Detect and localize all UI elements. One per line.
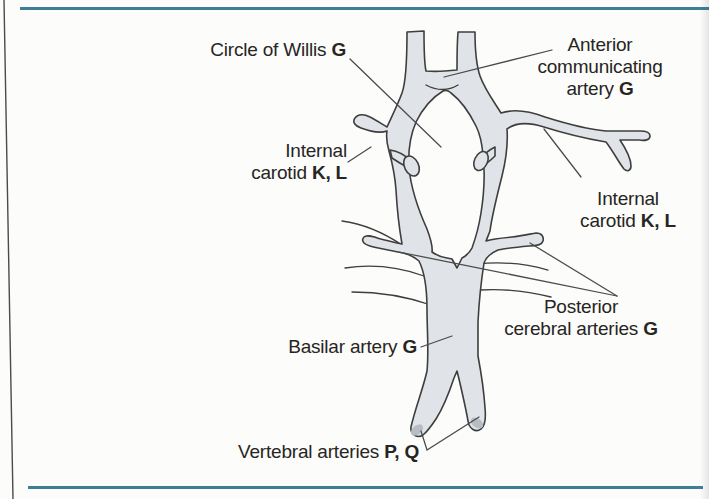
label-line: artery G <box>524 78 676 100</box>
leader-internal-carotid-left <box>348 147 371 162</box>
label-anterior-communicating-artery: Anterior communicating artery G <box>524 34 676 100</box>
label-line: cerebral arteries G <box>492 318 670 340</box>
label-line: Anterior <box>524 34 676 56</box>
page-left-edge-line <box>4 0 13 499</box>
label-text: artery <box>566 78 613 99</box>
label-code: G <box>643 318 658 339</box>
leader-posterior-cerebral-right <box>530 243 617 296</box>
label-text: Basilar artery <box>288 336 397 357</box>
label-basilar-artery: Basilar artery G <box>288 336 417 358</box>
label-line: communicating <box>524 56 676 78</box>
label-posterior-cerebral-arteries: Posterior cerebral arteries G <box>492 296 670 340</box>
label-internal-carotid-right: Internal carotid K, L <box>575 188 681 232</box>
label-line: carotid K, L <box>251 162 347 184</box>
label-text: Circle of Willis <box>210 39 326 60</box>
label-text: carotid <box>251 162 307 183</box>
label-internal-carotid-left: Internal carotid K, L <box>251 140 347 184</box>
label-text: carotid <box>580 210 636 231</box>
label-line: Posterior <box>492 296 670 318</box>
book-diagram-page: Circle of Willis G Anterior communicatin… <box>0 0 709 499</box>
label-code: P, Q <box>384 441 419 462</box>
label-code: G <box>402 336 417 357</box>
label-text: cerebral arteries <box>504 318 638 339</box>
label-line: carotid K, L <box>575 210 681 232</box>
label-line: Internal <box>251 140 347 162</box>
label-circle-of-willis: Circle of Willis G <box>210 39 346 61</box>
label-code: K, L <box>312 162 347 183</box>
label-text: Vertebral arteries <box>238 441 379 462</box>
label-line: Internal <box>575 188 681 210</box>
label-code: G <box>619 78 634 99</box>
label-code: G <box>331 39 346 60</box>
label-code: K, L <box>641 210 676 231</box>
label-vertebral-arteries: Vertebral arteries P, Q <box>238 441 419 463</box>
